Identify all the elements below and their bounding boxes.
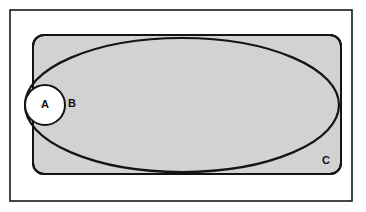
set-c-label: C xyxy=(322,154,330,166)
set-diagram-canvas: A B C xyxy=(0,0,366,212)
set-b-label: B xyxy=(68,97,76,109)
venn-diagram-svg: A B C xyxy=(0,0,366,212)
set-a-label: A xyxy=(41,98,49,110)
